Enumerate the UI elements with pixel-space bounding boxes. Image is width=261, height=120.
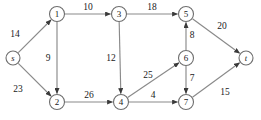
node-label-4: 4 [119,97,124,107]
graph-node-s: s [6,51,20,65]
edge-weight-3-5: 18 [147,2,157,12]
edge-weight-3-4: 12 [106,53,116,63]
edge-weight-s-2: 23 [13,84,23,94]
graph-node-t: t [239,51,253,65]
graph-node-5: 5 [179,7,194,22]
edge-weight-2-4: 26 [84,90,94,100]
graph-edge-5-to-t [192,19,239,54]
graph-edge-3-to-4 [119,22,121,94]
edge-weight-6-5: 8 [190,30,195,40]
graph-edge-7-to-t [192,63,239,98]
graph-node-4: 4 [114,95,129,110]
graph-edge-s-to-2 [18,63,51,96]
graph-node-2: 2 [50,95,65,110]
graph-canvas: 1423109181226254872015 s1234567t [0,0,261,120]
edge-weight-1-3: 10 [83,2,93,12]
graph-node-3: 3 [112,7,127,22]
graph-node-1: 1 [50,7,65,22]
edge-weight-s-1: 14 [10,29,20,39]
edge-weight-6-7: 7 [190,73,195,83]
node-label-3: 3 [117,9,122,19]
edges-layer [18,14,239,102]
node-label-1: 1 [55,9,60,19]
edge-weight-5-t: 20 [217,21,227,31]
node-label-2: 2 [55,97,60,107]
graph-node-6: 6 [179,51,194,66]
graph-node-7: 7 [179,95,194,110]
edge-weight-4-6: 25 [143,70,153,80]
edge-weight-4-7: 4 [151,90,156,100]
nodes-layer: s1234567t [6,7,253,110]
edge-weight-7-t: 15 [220,87,230,97]
node-label-5: 5 [184,9,189,19]
node-label-7: 7 [184,97,189,107]
graph-edge-s-to-1 [18,20,51,53]
edge-weight-1-2: 9 [46,53,51,63]
node-label-6: 6 [184,53,189,63]
graph-diagram: 1423109181226254872015 s1234567t [0,0,261,120]
